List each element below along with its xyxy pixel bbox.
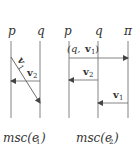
svg-text:msc(e: msc(e — [3, 131, 39, 145]
process-label-q: q — [95, 24, 103, 38]
svg-text:2: 2 — [109, 138, 113, 146]
svg-text:1: 1 — [36, 138, 40, 146]
diagram-msc-e2: p q π (q, v 1 ) v 2 v 1 msc(e 2 ) — [64, 24, 133, 146]
svg-text:1: 1 — [119, 94, 123, 102]
caption-msc-e2: msc(e 2 ) — [76, 131, 119, 146]
svg-text:(q,: (q, — [67, 43, 80, 54]
process-label-p: p — [8, 24, 16, 38]
svg-text:1: 1 — [16, 63, 25, 71]
message-label-v1: v 1 — [112, 89, 123, 102]
msc-figure: p q v 1 v 2 msc(e 1 ) p q π (q, v 1 — [0, 0, 139, 150]
diagram-msc-e1: p q v 1 v 2 msc(e 1 ) — [3, 24, 46, 146]
process-label-q: q — [37, 24, 45, 38]
process-label-p: p — [64, 24, 72, 38]
message-label-q-v1: (q, v 1 ) — [67, 43, 99, 56]
svg-text:2: 2 — [33, 72, 37, 80]
svg-text:): ) — [40, 131, 46, 145]
process-label-pi: π — [123, 24, 133, 38]
message-label-v2: v 2 — [82, 66, 93, 79]
svg-text:2: 2 — [89, 71, 93, 79]
svg-text:): ) — [113, 131, 119, 145]
caption-msc-e1: msc(e 1 ) — [3, 131, 46, 146]
svg-text:): ) — [95, 43, 99, 54]
message-arrow-v1 — [11, 57, 40, 103]
svg-text:msc(e: msc(e — [76, 131, 112, 145]
message-label-v2: v 2 — [26, 67, 37, 80]
